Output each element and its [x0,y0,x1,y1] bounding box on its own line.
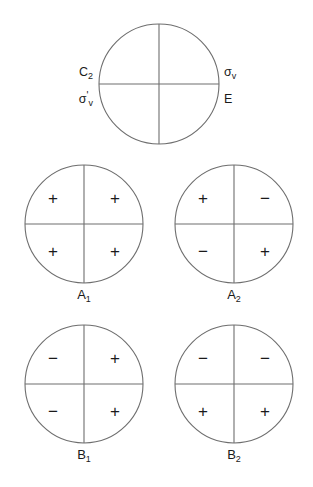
b1-sign-top-left: − [48,349,58,368]
symmetry-set-a2: + − − + A2 [175,165,293,304]
a1-sign-bottom-left: + [48,242,58,261]
b2-label: B2 [227,447,241,464]
label-c2: C2 [79,65,93,81]
a1-label: A1 [77,287,91,304]
b2-sign-bottom-right: + [260,402,270,421]
b2-sign-top-right: − [260,349,270,368]
a2-sign-bottom-left: − [198,242,208,261]
a1-sign-bottom-right: + [110,242,120,261]
a2-sign-top-left: + [198,189,208,208]
a2-label: A2 [227,287,241,304]
b1-sign-bottom-left: − [48,402,58,421]
label-identity-e: E [224,92,232,106]
label-sigma-v: σv [224,65,237,81]
symmetry-set-b2: − − + + B2 [175,325,293,464]
a1-sign-top-right: + [110,189,120,208]
b1-sign-top-right: + [110,349,120,368]
a1-sign-top-left: + [48,189,58,208]
symmetry-set-a1: + + + + A1 [25,165,143,304]
b2-sign-top-left: − [198,349,208,368]
b2-sign-bottom-left: + [198,402,208,421]
symmetry-diagram: C2 σv σ'v E + + + + A1 [0,0,313,487]
b1-label: B1 [77,447,91,464]
symmetry-set-b1: − + − + B1 [25,325,143,464]
operation-reference-circle: C2 σv σ'v E [79,24,237,144]
a2-sign-bottom-right: + [260,242,270,261]
a2-sign-top-right: − [260,189,270,208]
label-sigma-v-prime: σ'v [79,90,94,108]
b1-sign-bottom-right: + [110,402,120,421]
figure-canvas: C2 σv σ'v E + + + + A1 [0,0,313,487]
